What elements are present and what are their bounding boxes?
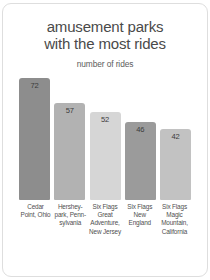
category-label-0: Cedar Point, Ohio (19, 203, 52, 236)
category-label-3: Six Flags New England (123, 203, 156, 236)
bar-value-label: 57 (54, 106, 85, 115)
chart-title-line-1: amusement parks (11, 18, 199, 35)
plot-area: 72 57 52 46 42 (19, 64, 191, 200)
bar-3: 46 (125, 122, 156, 200)
bar-series: 72 57 52 46 42 (19, 64, 191, 200)
category-label-4: Six Flags Magic Mountain, California (158, 203, 191, 236)
chart-title-line-2: with the most rides (11, 35, 199, 52)
category-label-1: Hershey-​park, Penn-​sylvania (54, 203, 87, 236)
bar-value-label: 42 (160, 132, 191, 141)
chart-title: amusement parks with the most rides (11, 18, 199, 52)
chart-screenshot: amusement parks with the most rides numb… (0, 0, 210, 280)
bar-1: 57 (54, 103, 85, 200)
bar-value-label: 52 (90, 115, 121, 124)
bar-0: 72 (19, 78, 50, 200)
bar-4: 42 (160, 129, 191, 200)
bar-2: 52 (90, 112, 121, 200)
category-axis: Cedar Point, Ohio Hershey-​park, Penn-​s… (19, 203, 191, 236)
category-label-2: Six Flags Great Adventure, New Jersey (89, 203, 122, 236)
bar-value-label: 46 (125, 125, 156, 134)
bar-value-label: 72 (19, 81, 50, 90)
